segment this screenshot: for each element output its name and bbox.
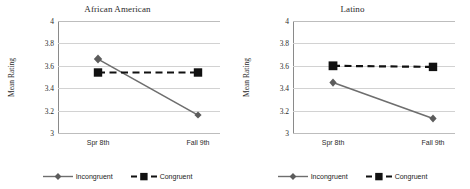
x-tick-label-fall-9th: Fall 9th [187, 139, 210, 146]
congruent-legend-icon [131, 172, 157, 181]
incongruent-marker-fall-9th [194, 112, 201, 119]
chart-panel-latino: Latino Mean Rating 4 3.8 3.6 3.4 3.2 3 [235, 0, 470, 189]
congruent-marker-spr-8th [329, 61, 338, 70]
gridline-3: 3 [58, 133, 220, 134]
y-tick-label: 3.4 [45, 84, 54, 93]
series-plot [293, 21, 455, 133]
incongruent-line [98, 59, 198, 115]
legend-label-congruent: Congruent [395, 173, 428, 180]
y-tick-label: 3.6 [280, 61, 289, 70]
plot-area: 4 3.8 3.6 3.4 3.2 3 [293, 21, 455, 133]
congruent-legend-icon [366, 172, 392, 181]
incongruent-legend-icon [278, 172, 308, 181]
y-tick-label: 3 [285, 129, 289, 138]
plot-area: 4 3.8 3.6 3.4 3.2 3 [58, 21, 220, 133]
congruent-marker-fall-9th [429, 63, 437, 71]
gridline-3: 3 [293, 133, 455, 134]
y-axis-label-text: Mean Rating [7, 58, 16, 97]
y-axis-label-text: Mean Rating [242, 58, 251, 97]
x-tick-label-spr-8th: Spr 8th [87, 139, 110, 146]
x-tick-label-fall-9th: Fall 9th [422, 139, 445, 146]
y-tick-label: 3.8 [45, 39, 54, 48]
legend: Incongruent Congruent [235, 172, 470, 181]
incongruent-marker-spr-8th [94, 55, 102, 64]
y-tick-label: 3.4 [280, 84, 289, 93]
y-tick-label: 3.2 [45, 106, 54, 115]
legend-entry-incongruent: Incongruent [278, 172, 348, 181]
y-tick-label: 3 [50, 129, 54, 138]
panel-title: Latino [235, 4, 470, 14]
legend-entry-congruent: Congruent [366, 172, 428, 181]
legend: Incongruent Congruent [0, 172, 235, 181]
legend-entry-incongruent: Incongruent [43, 172, 113, 181]
incongruent-legend-icon [43, 172, 73, 181]
y-tick-label: 3.8 [280, 39, 289, 48]
x-tick-label-spr-8th: Spr 8th [322, 139, 345, 146]
incongruent-marker-fall-9th [429, 114, 436, 122]
y-axis-label: Mean Rating [239, 34, 253, 120]
y-tick-label: 3.2 [280, 106, 289, 115]
legend-label-incongruent: Incongruent [76, 173, 113, 180]
incongruent-marker-spr-8th [329, 78, 336, 86]
y-tick-label: 4 [285, 17, 289, 26]
panel-title: African American [0, 4, 235, 14]
y-tick-label: 4 [50, 17, 54, 26]
chart-panel-african-american: African American Mean Rating 4 3.8 3.6 3… [0, 0, 235, 189]
legend-label-incongruent: Incongruent [311, 173, 348, 180]
y-axis-label: Mean Rating [4, 34, 18, 120]
figure-two-panel-line-charts: African American Mean Rating 4 3.8 3.6 3… [0, 0, 470, 189]
y-tick-label: 3.6 [45, 61, 54, 70]
congruent-marker-fall-9th [194, 68, 202, 76]
series-plot [58, 21, 220, 133]
incongruent-line [333, 83, 433, 119]
legend-entry-congruent: Congruent [131, 172, 193, 181]
legend-label-congruent: Congruent [160, 173, 193, 180]
congruent-marker-spr-8th [94, 68, 102, 76]
congruent-line [333, 66, 433, 67]
